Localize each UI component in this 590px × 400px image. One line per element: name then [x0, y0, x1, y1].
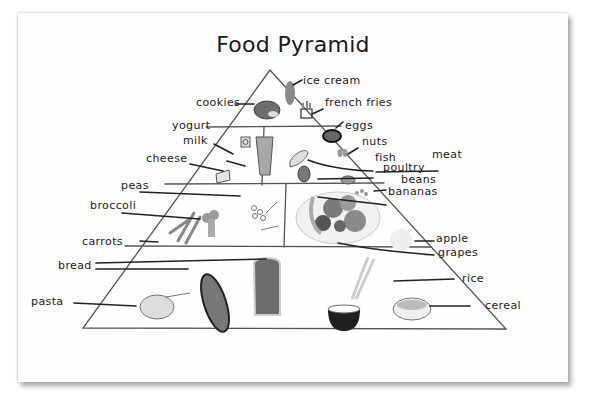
cereal-icon: [393, 298, 431, 320]
milk-icon: [256, 137, 273, 175]
label-meat: meat: [432, 148, 462, 161]
label-cereal: cereal: [485, 299, 521, 312]
label-bread: bread: [58, 259, 92, 272]
meat-icon: [298, 166, 310, 182]
cheese-icon: [216, 170, 230, 183]
poultry-icon: [341, 176, 355, 184]
yogurt-icon: [241, 137, 250, 147]
fish-icon: [290, 151, 308, 167]
pyramid-illustration: [18, 13, 568, 382]
baguette-icon: [195, 271, 234, 335]
rice-icon: [328, 257, 374, 331]
pasta-icon: [140, 293, 190, 319]
label-apple: apple: [436, 232, 469, 245]
label-carrots: carrots: [82, 235, 123, 248]
label-eggs: eggs: [345, 119, 373, 132]
label-cookies: cookies: [196, 96, 240, 109]
label-peas: peas: [121, 179, 149, 192]
label-yogurt: yogurt: [172, 119, 210, 132]
food-pyramid-card: Food Pyramid: [18, 13, 568, 382]
label-french-fries: french fries: [325, 96, 392, 109]
peas-icon: [252, 202, 279, 230]
eggs-icon: [323, 130, 341, 142]
label-milk: milk: [183, 134, 208, 147]
label-rice: rice: [462, 272, 484, 285]
label-ice-cream: ice cream: [303, 74, 361, 87]
label-grapes: grapes: [438, 246, 478, 259]
label-broccoli: broccoli: [90, 199, 136, 212]
label-nuts: nuts: [362, 135, 388, 148]
toast-icon: [254, 258, 280, 315]
label-cheese: cheese: [146, 152, 187, 165]
label-pasta: pasta: [31, 295, 64, 308]
label-bananas: bananas: [388, 185, 438, 198]
nuts-icon: [338, 149, 343, 157]
broccoli-icon: [202, 210, 219, 237]
apple-icon: [390, 229, 412, 251]
pyramid-outline: [83, 70, 506, 329]
